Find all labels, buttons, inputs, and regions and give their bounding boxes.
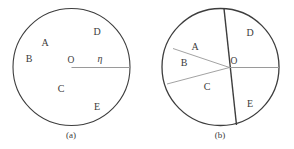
region-label-b-D: D xyxy=(246,27,253,38)
divider-diameter-b xyxy=(224,9,237,125)
center-label-b: O xyxy=(231,56,238,66)
region-label-a-E: E xyxy=(94,101,100,112)
region-label-b-B: B xyxy=(181,57,188,68)
region-label-a-A: A xyxy=(41,37,49,48)
eta-label-a: η xyxy=(98,53,103,64)
region-label-b-C: C xyxy=(204,81,211,92)
region-label-a-D: D xyxy=(93,26,100,37)
region-label-b-A: A xyxy=(191,41,199,52)
caption-panel-a: (a) xyxy=(66,130,76,140)
figure-svg-canvas: O η A B C D E (a) O A B C D E (b) xyxy=(0,0,294,149)
center-label-a: O xyxy=(68,55,75,65)
figure-root: O η A B C D E (a) O A B C D E (b) xyxy=(0,0,294,149)
region-label-b-E: E xyxy=(247,98,253,109)
panel-b: O A B C D E (b) xyxy=(162,9,279,141)
region-label-a-B: B xyxy=(26,53,33,64)
panel-a: O η A B C D E (a) xyxy=(13,9,130,141)
divider-radius-lower-b xyxy=(167,68,230,85)
caption-panel-b: (b) xyxy=(215,130,226,140)
region-label-a-C: C xyxy=(58,83,65,94)
